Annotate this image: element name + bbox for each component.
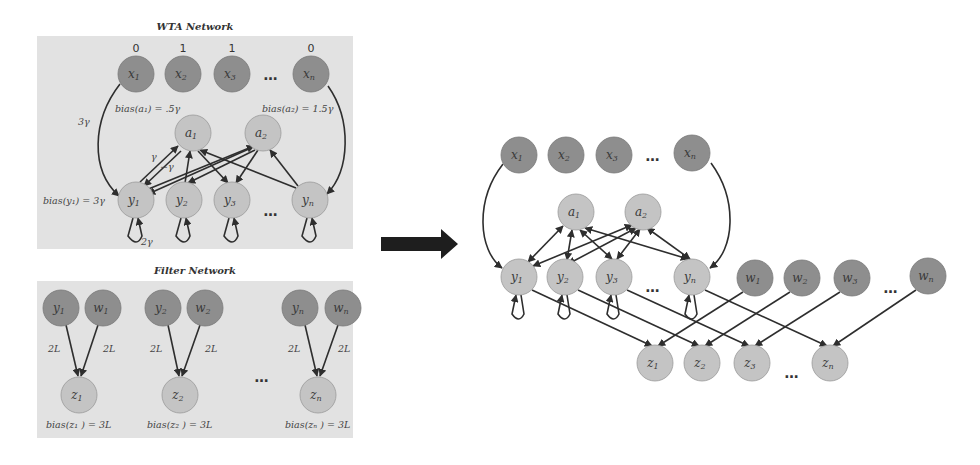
diagram-canvas: WTA Network 0 1 1 0 [0, 0, 980, 465]
combined-node-z1: z1 [637, 345, 673, 381]
input-value-x3: 1 [229, 42, 236, 55]
combined-edges [483, 163, 916, 346]
filter-title: Filter Network [153, 265, 236, 276]
inhibit-weight-label: −γ [160, 161, 174, 172]
ellipsis-x: … [264, 67, 279, 83]
node-a2: a2 [245, 115, 281, 151]
excite-weight-label: γ [151, 151, 157, 162]
node-yn: yn [292, 182, 328, 218]
input-value-x1: 0 [133, 42, 140, 55]
combined-node-zn: zn [812, 345, 848, 381]
bias-a1-label: bias(a₁) = .5γ [115, 103, 181, 114]
self-weight-label: 2γ [140, 236, 153, 247]
combined-node-y1: y1 [501, 259, 537, 295]
input-value-xn: 0 [308, 42, 315, 55]
svg-text:2L: 2L [204, 343, 217, 354]
bias-a2-label: bias(a₂) = 1.5γ [262, 103, 334, 114]
svg-text:…: … [785, 365, 800, 381]
combined-node-z3: z3 [734, 345, 770, 381]
svg-text:2L: 2L [47, 343, 60, 354]
node-a1: a1 [175, 115, 211, 151]
svg-text:2L: 2L [149, 343, 162, 354]
svg-text:bias(z₁ ) = 3L: bias(z₁ ) = 3L [46, 419, 111, 430]
node-y2: y2 [166, 182, 202, 218]
combined-node-w3: w3 [834, 260, 870, 296]
node-x2: x2 [165, 56, 201, 92]
combined-node-w2: w2 [784, 260, 820, 296]
ellipsis-filter: … [255, 369, 270, 385]
combined-node-y3: y3 [596, 259, 632, 295]
right-arrow-icon [381, 229, 458, 259]
combined-node-x1: x1 [501, 137, 537, 173]
svg-text:…: … [646, 279, 661, 295]
node-xn: xn [293, 56, 329, 92]
node-y3: y3 [214, 182, 250, 218]
svg-text:bias(z₂ ) = 3L: bias(z₂ ) = 3L [147, 419, 212, 430]
svg-text:2L: 2L [287, 343, 300, 354]
combined-node-x3: x3 [596, 137, 632, 173]
combined-node-wn: wn [910, 258, 946, 294]
ellipsis-y: … [264, 203, 279, 219]
node-x3: x3 [214, 56, 250, 92]
combined-node-w1: w1 [737, 260, 773, 296]
combined-node-z2: z2 [684, 345, 720, 381]
input-weight-label: 3γ [78, 116, 90, 127]
node-x1: x1 [118, 56, 154, 92]
wta-network: WTA Network 0 1 1 0 [37, 21, 353, 249]
svg-text:2L: 2L [337, 343, 350, 354]
combined-node-a2: a2 [625, 194, 661, 230]
svg-text:2L: 2L [102, 343, 115, 354]
node-y1: y1 [118, 182, 154, 218]
combined-node-a1: a1 [558, 194, 594, 230]
input-value-x2: 1 [180, 42, 187, 55]
svg-text:…: … [646, 148, 661, 164]
combined-node-xn: xn [674, 135, 710, 171]
wta-title: WTA Network [157, 21, 234, 32]
combined-node-y2: y2 [547, 259, 583, 295]
svg-text:…: … [884, 280, 899, 296]
combined-node-yn: yn [674, 259, 710, 295]
svg-text:bias(zₙ ) = 3L: bias(zₙ ) = 3L [285, 419, 350, 430]
bias-y1-label: bias(y₁) = 3γ [43, 195, 105, 206]
filter-network: Filter Network y1 w1 z1 2L 2L bias(z₁ ) … [37, 265, 361, 438]
combined-network: x1 x2 x3 … xn a1 a2 y1 y2 y3 … yn w1 w2 … [483, 135, 946, 381]
combined-node-x2: x2 [548, 137, 584, 173]
